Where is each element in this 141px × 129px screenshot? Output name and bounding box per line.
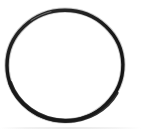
image-canvas: Hand-drawn black ring outline on white b… [0, 0, 141, 129]
ring-figure [0, 0, 141, 129]
canvas-background [0, 0, 141, 129]
